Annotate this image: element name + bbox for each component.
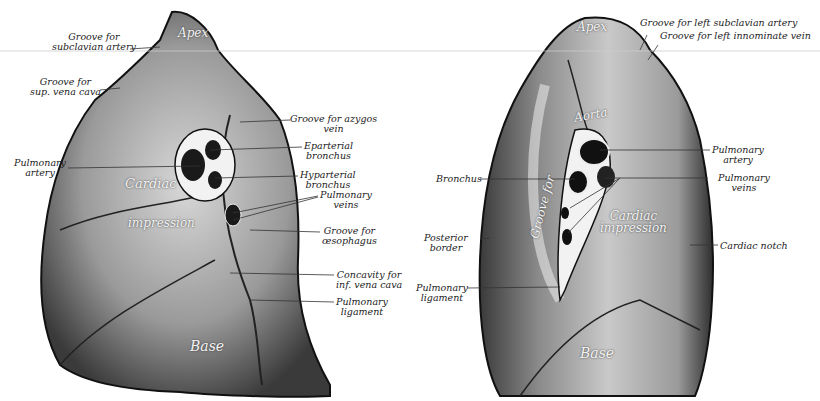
label-text: Eparterial bronchus (304, 140, 353, 161)
label-groove-subclavian-artery: Groove for subclavian artery (52, 32, 136, 52)
label-text: Bronchus (436, 173, 482, 184)
label-pulmonary-ligament-right: Pulmonary ligament (336, 297, 388, 317)
label-hyparterial-bronchus: Hyparterial bronchus (300, 170, 356, 190)
label-text: Posterior border (424, 232, 468, 253)
label-pulmonary-ligament-left: Pulmonary ligament (416, 283, 468, 303)
label-pulmonary-artery-left: Pulmonary artery (712, 145, 764, 165)
inner-label-cardiac-impression: Cardiac impression (600, 210, 667, 234)
label-text: Pulmonary ligament (336, 296, 388, 317)
right-lung (41, 12, 330, 397)
label-text: Pulmonary veins (320, 189, 372, 210)
inner-label-cardiac: Cardiac (125, 176, 176, 191)
label-pulmonary-veins-right: Pulmonary veins (320, 190, 372, 210)
inner-label-base-right: Base (190, 338, 224, 354)
left-lung (480, 17, 713, 396)
label-eparterial-bronchus: Eparterial bronchus (304, 141, 353, 161)
label-bronchus: Bronchus (436, 174, 478, 184)
inner-label-apex-right: Apex (178, 26, 208, 40)
inner-label-base-left: Base (580, 345, 614, 361)
lungs-illustration (0, 0, 820, 401)
right-lung-outline (41, 12, 330, 397)
label-groove-azygos-vein: Groove for azygos vein (290, 114, 377, 134)
label-groove-left-innominate-vein: Groove for left innominate vein (660, 31, 811, 41)
label-text: Cardiac notch (720, 240, 788, 251)
label-text: Pulmonary artery (712, 144, 764, 165)
label-text: Pulmonary artery (14, 157, 66, 178)
label-text: Pulmonary veins (718, 172, 770, 193)
label-text: Groove for subclavian artery (52, 31, 136, 52)
inner-label-apex-left: Apex (577, 20, 607, 34)
label-groove-left-subclavian-artery: Groove for left subclavian artery (640, 18, 797, 28)
label-text: Groove for azygos vein (290, 113, 377, 134)
label-cardiac-notch: Cardiac notch (720, 241, 788, 251)
label-text: Hyparterial bronchus (300, 169, 356, 190)
label-pulmonary-veins-left: Pulmonary veins (718, 173, 770, 193)
lung-mediastinal-surfaces-figure: Groove for subclavian artery Groove for … (0, 0, 820, 401)
label-groove-oesophagus: Groove for œsophagus (322, 226, 377, 246)
label-text: Pulmonary ligament (416, 282, 468, 303)
label-groove-sup-vena-cava: Groove for sup. vena cava (30, 77, 101, 97)
inner-label-impression: impression (128, 216, 195, 230)
label-concavity-inf-vena-cava: Concavity for inf. vena cava (336, 270, 402, 290)
label-text: Groove for sup. vena cava (30, 76, 101, 97)
label-text: Groove for œsophagus (322, 225, 377, 246)
label-text: Concavity for inf. vena cava (336, 269, 402, 290)
label-text: Groove for left innominate vein (660, 30, 811, 41)
label-text: Groove for left subclavian artery (640, 17, 797, 28)
label-pulmonary-artery-right: Pulmonary artery (14, 158, 66, 178)
label-posterior-border: Posterior border (424, 233, 468, 253)
